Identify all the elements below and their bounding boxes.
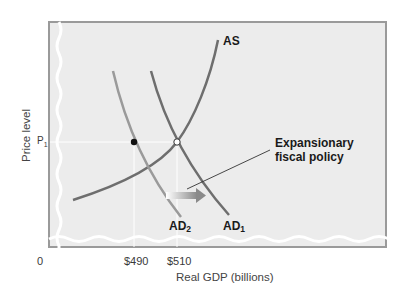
annotation-text: Expansionary fiscal policy <box>275 136 354 164</box>
x-tick-510: $510 <box>167 255 191 267</box>
y-tick-p1: P1 <box>37 135 48 148</box>
as-label: AS <box>223 34 240 48</box>
y-tick-p1-sub: 1 <box>44 141 48 148</box>
x-axis-title: Real GDP (billions) <box>176 271 274 283</box>
x-tick-0: 0 <box>37 255 43 267</box>
x-tick-490: $490 <box>124 255 148 267</box>
equilibrium-point-dot <box>174 139 180 145</box>
plot-area <box>49 22 386 247</box>
ad2-point-dot <box>131 139 137 145</box>
ad1-label-sub: 1 <box>240 224 245 234</box>
annotation-line-1: Expansionary <box>275 136 354 150</box>
y-axis-title: Price level <box>20 109 32 162</box>
ad2-label-sub: 2 <box>186 224 191 234</box>
annotation-line-2: fiscal policy <box>275 150 354 164</box>
ad1-label-main: AD <box>223 219 240 233</box>
ad1-label: AD1 <box>223 219 245 234</box>
ad2-label-main: AD <box>169 219 186 233</box>
y-tick-p1-main: P <box>37 135 44 146</box>
ad2-label: AD2 <box>169 219 191 234</box>
